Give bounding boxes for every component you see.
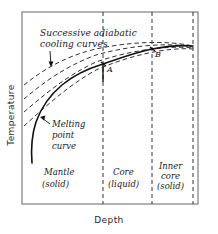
annotation-adiabatic-line2: cooling curves (40, 39, 108, 49)
adiabatic-melting-curve-diagram: A B Successive adiabatic cooling curves … (0, 0, 218, 234)
annotation-melting-line3: curve (52, 141, 76, 151)
zone-label-inner-core-state: (solid) (157, 181, 184, 191)
annotation-melting-line2: point (52, 130, 75, 140)
x-axis-label: Depth (0, 215, 218, 225)
zone-label-inner-core-name2: core (161, 171, 180, 181)
zone-label-mantle-state: (solid) (42, 179, 69, 189)
annotation-adiabatic-line1: Successive adiabatic (40, 28, 137, 38)
point-label-b: B (154, 50, 161, 59)
figure-container: A B Successive adiabatic cooling curves … (0, 0, 218, 234)
point-label-a: A (106, 65, 113, 74)
zone-label-inner-core-name: Inner (158, 161, 183, 171)
y-axis-label: Temperature (6, 80, 16, 150)
zone-label-core-state: (liquid) (108, 179, 139, 189)
zone-label-core-name: Core (113, 167, 134, 177)
zone-label-mantle-name: Mantle (43, 167, 74, 177)
annotation-melting-line1: Melting (51, 119, 86, 129)
